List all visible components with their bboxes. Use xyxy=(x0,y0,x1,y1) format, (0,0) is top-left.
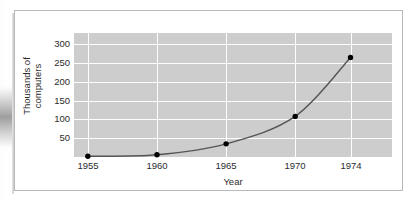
x-tick-1955: 1955 xyxy=(65,160,111,171)
x-tick-1974: 1974 xyxy=(328,160,374,171)
y-axis-title-line-2: computers xyxy=(32,26,43,146)
x-axis-title: Year xyxy=(74,176,392,187)
data-point-1974 xyxy=(348,55,353,60)
y-axis-title-line-1: Thousands of xyxy=(21,26,32,146)
x-tick-1965: 1965 xyxy=(203,160,249,171)
data-point-1960 xyxy=(154,152,159,157)
series-line xyxy=(74,33,392,157)
x-axis-tick-labels: 19551960196519701974 xyxy=(74,160,392,174)
series-markers xyxy=(85,55,353,159)
x-tick-1970: 1970 xyxy=(272,160,318,171)
data-point-1970 xyxy=(293,114,298,119)
series-curve xyxy=(88,57,351,156)
plot-area xyxy=(74,33,392,157)
line-chart: 30025020015010050 19551960196519701974 Y… xyxy=(0,0,414,202)
y-axis-title: Thousands of computers xyxy=(21,26,43,146)
data-point-1965 xyxy=(223,141,228,146)
data-point-1955 xyxy=(85,154,90,159)
x-tick-1960: 1960 xyxy=(134,160,180,171)
